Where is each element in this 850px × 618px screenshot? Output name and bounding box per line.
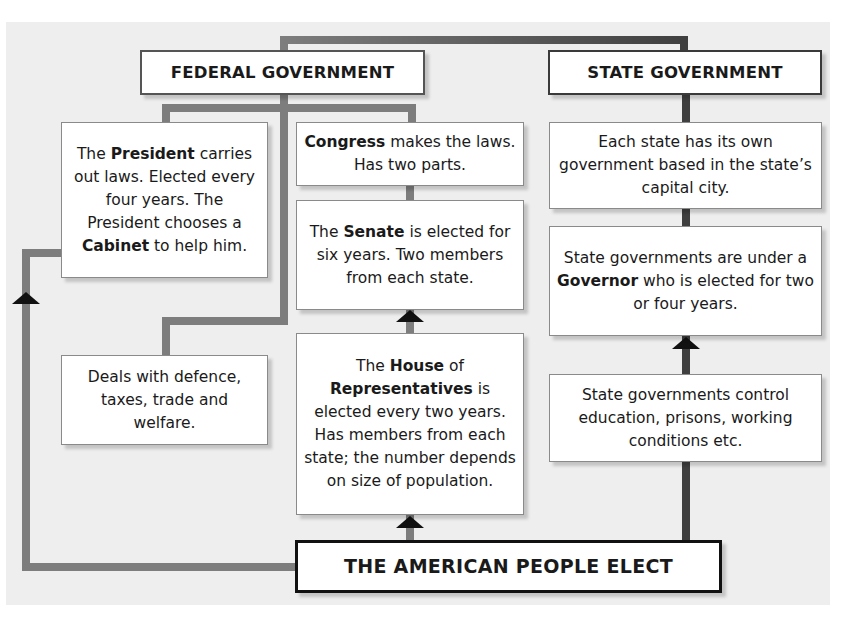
- president-text: The President carries out laws. Elected …: [68, 143, 261, 258]
- federal-duties-text: Deals with defence, taxes, trade and wel…: [68, 366, 261, 435]
- state-control-box: State governments control education, pri…: [549, 374, 822, 462]
- senate-text: The Senate is elected for six years. Two…: [303, 221, 517, 290]
- arrow-up-senate: [396, 310, 424, 322]
- state-capital-text: Each state has its own government based …: [556, 131, 815, 200]
- connector-people-control: [682, 462, 690, 542]
- state-capital-box: Each state has its own government based …: [549, 122, 822, 209]
- connector-federal-trunk: [280, 95, 288, 325]
- state-government-title: STATE GOVERNMENT: [548, 50, 822, 95]
- congress-text: Congress makes the laws. Has two parts.: [303, 131, 517, 177]
- connector-state-capital: [682, 95, 690, 124]
- federal-government-title: FEDERAL GOVERNMENT: [140, 50, 425, 95]
- connector-top-bridge: [280, 36, 688, 44]
- senate-box: The Senate is elected for six years. Two…: [296, 200, 524, 310]
- arrow-up-house: [396, 516, 424, 528]
- connector-trunk-deals-v: [162, 317, 170, 357]
- governor-text: State governments are under a Governor w…: [556, 247, 815, 316]
- connector-people-president-h-bottom: [22, 563, 298, 571]
- arrow-up-president: [12, 292, 40, 304]
- connector-federal-branch: [162, 104, 416, 112]
- american-people-box: THE AMERICAN PEOPLE ELECT: [295, 540, 722, 593]
- president-box: The President carries out laws. Elected …: [61, 122, 268, 278]
- connector-to-congress: [408, 104, 416, 124]
- arrow-up-governor: [672, 337, 700, 349]
- federal-duties-box: Deals with defence, taxes, trade and wel…: [61, 355, 268, 445]
- house-text: The House of Representatives is elected …: [303, 355, 517, 493]
- state-control-text: State governments control education, pri…: [556, 384, 815, 453]
- connector-trunk-deals-h: [162, 317, 288, 325]
- governor-box: State governments are under a Governor w…: [549, 226, 822, 336]
- congress-box: Congress makes the laws. Has two parts.: [296, 122, 524, 186]
- connector-to-president: [162, 104, 170, 124]
- house-box: The House of Representatives is elected …: [296, 333, 524, 515]
